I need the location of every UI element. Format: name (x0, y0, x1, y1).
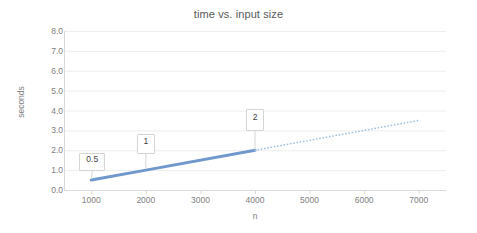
series-line-trendline (255, 120, 419, 150)
chart-container: time vs. input size seconds n 0.01.02.03… (0, 0, 477, 233)
data-point-label[interactable]: 0.5 (79, 153, 105, 171)
data-point-label[interactable]: 2 (246, 109, 264, 131)
data-point-label[interactable]: 1 (137, 134, 155, 154)
label-leader-line (91, 171, 92, 179)
series-line-measured (91, 150, 255, 180)
plot-area (0, 0, 477, 233)
